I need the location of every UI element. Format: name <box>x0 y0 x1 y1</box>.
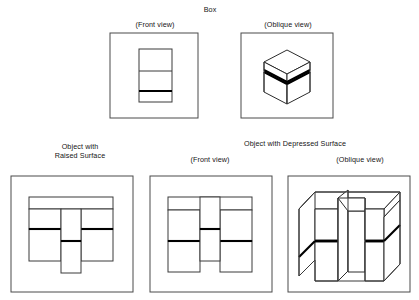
oblique-right-front-lower <box>365 242 384 281</box>
oblique-left-front-lower <box>315 242 338 281</box>
oblique-center-recess-floor <box>348 211 365 272</box>
oblique-left-outer-wall <box>299 192 315 276</box>
oblique-left-front-upper <box>315 209 338 240</box>
panel-depressed-oblique-view <box>0 0 419 300</box>
oblique-right-front-upper <box>365 209 384 240</box>
figure-sheet: Box (Front view) (Oblique view) Objec <box>0 0 419 300</box>
